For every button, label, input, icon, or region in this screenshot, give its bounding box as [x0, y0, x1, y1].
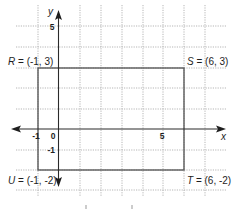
vertex-label-s: S = (6, 3): [187, 56, 228, 67]
x-tick-0: 0: [51, 131, 56, 141]
grid: [16, 5, 227, 196]
rectangle-rstu: [38, 68, 184, 170]
coordinate-plane-figure: y x 5 -1 -1 0 5 R = (-1, 3) S = (6, 3) T…: [0, 0, 235, 210]
x-tick-neg1: -1: [32, 131, 40, 141]
y-axis-label: y: [47, 6, 54, 17]
x-axis: [11, 126, 226, 133]
vertex-label-t: T = (6, -2): [187, 175, 231, 186]
vertex-label-r: R = (-1, 3): [8, 56, 53, 67]
vertex-label-u: U = (-1, -2): [8, 175, 57, 186]
x-tick-5: 5: [160, 131, 165, 141]
x-axis-label: x: [220, 131, 227, 142]
y-tick-neg1: -1: [47, 145, 55, 155]
y-tick-5: 5: [50, 22, 55, 32]
y-axis: [55, 10, 62, 187]
